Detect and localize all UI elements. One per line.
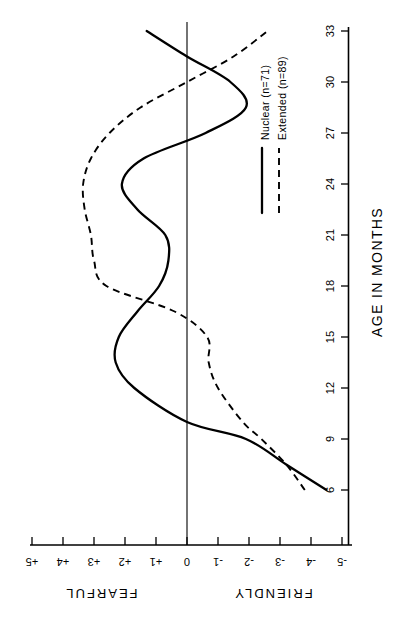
chart-svg: 6 9 12 15 18 21 24 27 30 33 AGE IN MONTH… <box>0 0 402 617</box>
age-tick-label: 21 <box>324 229 336 241</box>
series-line-extended <box>83 31 305 490</box>
age-tick-label: 30 <box>324 76 336 88</box>
value-tick-label: -4 <box>306 556 316 568</box>
plot-area <box>83 31 327 490</box>
value-tick-label: 0 <box>184 556 190 568</box>
age-axis <box>30 27 352 545</box>
value-tick-label: +1 <box>150 556 163 568</box>
age-tick-label: 12 <box>324 382 336 394</box>
age-tick-label: 9 <box>324 436 336 442</box>
age-axis-tick-labels: 6 9 12 15 18 21 24 27 30 33 <box>324 25 336 493</box>
age-axis-title: AGE IN MONTHS <box>369 207 385 337</box>
value-axis-title-positive: FEARFUL <box>64 586 137 601</box>
age-tick-label: 33 <box>324 25 336 37</box>
value-tick-label: +4 <box>57 556 70 568</box>
legend-label-extended: Extended (n=89) <box>276 56 288 140</box>
value-tick-label: -2 <box>244 556 254 568</box>
value-tick-label: +5 <box>26 556 39 568</box>
chart-figure: 6 9 12 15 18 21 24 27 30 33 AGE IN MONTH… <box>0 0 402 617</box>
legend-label-nuclear: Nuclear (n=71) <box>259 65 271 140</box>
value-tick-label: +3 <box>88 556 101 568</box>
value-tick-label: -3 <box>275 556 285 568</box>
age-tick-label: 18 <box>324 280 336 292</box>
age-tick-label: 24 <box>324 178 336 190</box>
value-tick-label: -5 <box>337 556 347 568</box>
legend: Nuclear (n=71) Extended (n=89) <box>259 56 288 213</box>
value-axis-title-negative: FRIENDLY <box>233 586 312 601</box>
age-tick-label: 27 <box>324 127 336 139</box>
series-line-nuclear <box>115 31 327 490</box>
age-tick-label: 15 <box>324 331 336 343</box>
value-axis-tick-labels: +5 +4 +3 +2 +1 0 -1 -2 -3 -4 -5 <box>26 556 347 568</box>
value-tick-label: +2 <box>119 556 132 568</box>
value-tick-label: -1 <box>213 556 223 568</box>
